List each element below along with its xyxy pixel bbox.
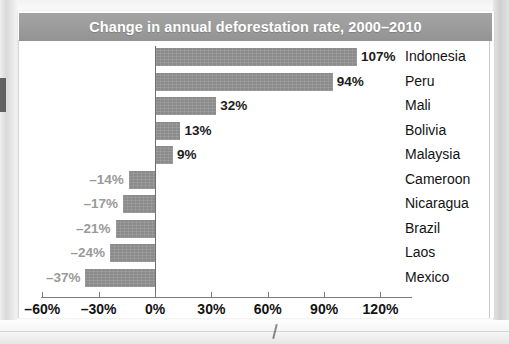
bar-value-label: 107%	[361, 47, 396, 66]
bar-row: 9%Malaysia	[18, 143, 494, 168]
category-label-nicaragua: Nicaragua	[405, 193, 469, 214]
bar-rows: 107%Indonesia94%Peru32%Mali13%Bolivia9%M…	[18, 41, 494, 291]
x-tick-mark	[380, 292, 381, 297]
bar-brazil	[116, 220, 155, 238]
bar-row: –21%Brazil	[18, 217, 494, 242]
bar-value-label: –21%	[76, 219, 111, 238]
bar-laos	[110, 244, 155, 262]
page-top-margin	[0, 0, 509, 11]
bar-row: –14%Cameroon	[18, 168, 494, 193]
category-label-brazil: Brazil	[405, 218, 440, 239]
category-label-laos: Laos	[405, 242, 435, 263]
category-label-bolivia: Bolivia	[405, 120, 446, 141]
page-bottom-margin	[0, 320, 509, 344]
x-tick-mark	[99, 292, 100, 297]
x-tick-label: 0%	[145, 301, 165, 317]
x-axis-line	[41, 297, 412, 298]
bar-value-label: 32%	[220, 96, 247, 115]
bar-value-label: 9%	[177, 145, 197, 164]
category-label-mali: Mali	[405, 95, 431, 116]
bar-row: –37%Mexico	[18, 266, 494, 291]
bar-row: –24%Laos	[18, 241, 494, 266]
bar-cameroon	[129, 171, 155, 189]
x-tick-mark	[42, 292, 43, 297]
x-tick-label: 120%	[363, 301, 399, 317]
category-label-mexico: Mexico	[405, 267, 449, 288]
figure-page: Change in annual deforestation rate, 200…	[0, 0, 509, 344]
bar-mali	[156, 97, 216, 115]
chart-title-bar: Change in annual deforestation rate, 200…	[19, 13, 492, 41]
category-label-cameroon: Cameroon	[405, 169, 470, 190]
bar-value-label: –14%	[89, 170, 124, 189]
bar-value-label: 13%	[184, 121, 211, 140]
x-tick-label: –60%	[24, 301, 60, 317]
x-tick-mark	[268, 292, 269, 297]
bar-value-label: –37%	[46, 268, 81, 287]
bar-row: –17%Nicaragua	[18, 192, 494, 217]
plot-area: 107%Indonesia94%Peru32%Mali13%Bolivia9%M…	[18, 41, 494, 318]
x-tick-label: 60%	[254, 301, 282, 317]
bar-indonesia	[156, 48, 357, 66]
x-tick-mark	[324, 292, 325, 297]
page-right-margin	[493, 0, 509, 344]
bar-bolivia	[156, 122, 180, 140]
bar-value-label: –17%	[84, 194, 119, 213]
bar-row: 32%Mali	[18, 94, 494, 119]
bar-peru	[156, 73, 333, 91]
scan-edge-artifact	[0, 78, 6, 112]
page-title: Change in annual deforestation rate, 200…	[89, 19, 422, 35]
x-tick-mark	[211, 292, 212, 297]
bar-mexico	[85, 269, 155, 287]
bar-value-label: 94%	[337, 72, 364, 91]
scan-line	[0, 331, 509, 332]
bar-value-label: –24%	[70, 243, 105, 262]
x-tick-mark	[155, 292, 156, 297]
x-tick-label: 30%	[197, 301, 225, 317]
category-label-malaysia: Malaysia	[405, 144, 460, 165]
x-tick-label: 90%	[310, 301, 338, 317]
category-label-indonesia: Indonesia	[405, 46, 466, 67]
x-tick-label: –30%	[81, 301, 117, 317]
bar-nicaragua	[123, 195, 155, 213]
bar-malaysia	[156, 146, 173, 164]
bar-row: 107%Indonesia	[18, 45, 494, 70]
category-label-peru: Peru	[405, 71, 435, 92]
page-left-margin	[0, 0, 18, 344]
bar-row: 94%Peru	[18, 70, 494, 95]
bar-row: 13%Bolivia	[18, 119, 494, 144]
